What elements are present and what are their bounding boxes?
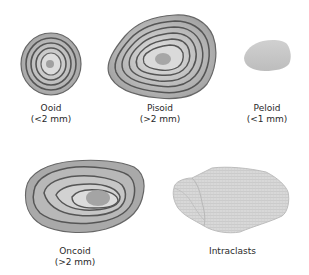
peloid-name: Peloid bbox=[232, 103, 302, 114]
oncoid-figure bbox=[22, 157, 147, 235]
ooid-label: Ooid (<2 mm) bbox=[18, 103, 84, 125]
intraclasts-label: Intraclasts bbox=[195, 246, 270, 257]
intraclasts-figure bbox=[170, 160, 295, 240]
pisoid-size: (>2 mm) bbox=[125, 114, 195, 125]
oncoid-illustration bbox=[22, 157, 147, 235]
ooid-name: Ooid bbox=[18, 103, 84, 114]
ooid-figure bbox=[18, 31, 84, 97]
peloid-illustration bbox=[241, 38, 293, 72]
intraclasts-name: Intraclasts bbox=[195, 246, 270, 257]
oncoid-label: Oncoid (>2 mm) bbox=[40, 246, 110, 268]
oncoid-size: (>2 mm) bbox=[40, 257, 110, 268]
peloid-label: Peloid (<1 mm) bbox=[232, 103, 302, 125]
pisoid-label: Pisoid (>2 mm) bbox=[125, 103, 195, 125]
ooid-illustration bbox=[18, 31, 84, 97]
oncoid-name: Oncoid bbox=[40, 246, 110, 257]
peloid-size: (<1 mm) bbox=[232, 114, 302, 125]
pisoid-name: Pisoid bbox=[125, 103, 195, 114]
ooid-size: (<2 mm) bbox=[18, 114, 84, 125]
peloid-figure bbox=[241, 38, 293, 72]
pisoid-figure bbox=[103, 12, 218, 100]
intraclasts-illustration bbox=[170, 160, 295, 240]
pisoid-illustration bbox=[103, 12, 218, 100]
